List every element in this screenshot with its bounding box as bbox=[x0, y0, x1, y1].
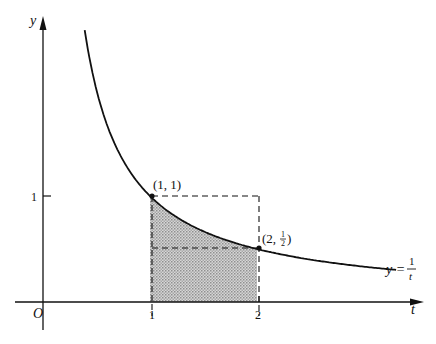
svg-text:): ) bbox=[287, 231, 291, 246]
diagram: y t O 1 (1, 1) (2, 1 2 ) 1 2 y = 1 t bbox=[0, 0, 436, 344]
svg-text:2: 2 bbox=[281, 239, 285, 248]
y-tick-label-1: 1 bbox=[31, 190, 37, 204]
point-label-2-half: (2, 1 2 ) bbox=[262, 230, 291, 248]
point-2-half bbox=[256, 245, 261, 250]
curve-label: y = 1 t bbox=[384, 255, 416, 282]
svg-text:(2,: (2, bbox=[262, 231, 276, 246]
svg-text:1: 1 bbox=[281, 230, 285, 239]
y-axis-label: y bbox=[28, 13, 37, 28]
origin-label: O bbox=[33, 306, 43, 321]
curve-y-equals-1-over-t bbox=[85, 30, 396, 270]
shaded-area-region bbox=[150, 196, 257, 302]
svg-text:y =: y = bbox=[384, 262, 405, 277]
x-tick-label-2: 2 bbox=[255, 308, 261, 322]
svg-text:1: 1 bbox=[409, 255, 415, 267]
x-tick-label-1: 1 bbox=[149, 308, 155, 322]
point-1-1 bbox=[149, 193, 154, 198]
x-axis-label: t bbox=[411, 302, 416, 317]
y-axis-arrow-icon bbox=[40, 16, 47, 30]
svg-text:t: t bbox=[409, 270, 413, 282]
point-label-1-1: (1, 1) bbox=[153, 177, 181, 192]
